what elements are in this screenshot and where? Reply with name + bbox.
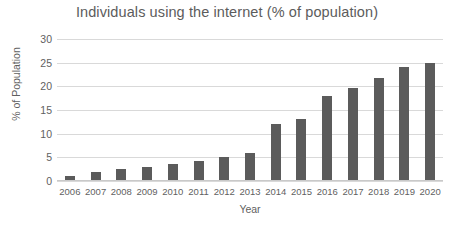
bar-slot: [134, 39, 160, 181]
x-axis-tick-label: 2015: [289, 186, 315, 197]
y-axis-title: % of Population: [10, 24, 22, 144]
y-axis-tick-label: 5: [22, 152, 52, 162]
bar-slot: [263, 39, 289, 181]
x-axis-line: [57, 180, 443, 181]
bar-slot: [392, 39, 418, 181]
bar-slot: [366, 39, 392, 181]
bar-slot: [289, 39, 315, 181]
bar: [348, 88, 358, 181]
bar: [399, 67, 409, 181]
x-axis-tick-label: 2010: [160, 186, 186, 197]
y-axis-tick-label: 0: [22, 176, 52, 186]
x-axis-tick-label: 2013: [237, 186, 263, 197]
gridline: [57, 181, 443, 182]
bar-slot: [186, 39, 212, 181]
bar: [374, 78, 384, 181]
bar-slot: [314, 39, 340, 181]
bar: [142, 167, 152, 181]
bar: [194, 161, 204, 181]
bar-chart: Individuals using the internet (% of pop…: [0, 0, 454, 227]
bars-layer: [57, 39, 443, 181]
x-axis-tick-label: 2014: [263, 186, 289, 197]
bar-slot: [417, 39, 443, 181]
bar-slot: [83, 39, 109, 181]
x-axis-tick-label: 2018: [366, 186, 392, 197]
x-axis-tick-label: 2016: [314, 186, 340, 197]
y-axis-tick-label: 30: [22, 34, 52, 44]
x-axis-tick-label: 2007: [83, 186, 109, 197]
bar: [219, 157, 229, 181]
x-axis-tick-label: 2009: [134, 186, 160, 197]
bar-slot: [211, 39, 237, 181]
x-axis-title: Year: [57, 203, 443, 215]
bar: [322, 96, 332, 181]
x-axis-tick-label: 2017: [340, 186, 366, 197]
bar-slot: [160, 39, 186, 181]
bar-slot: [108, 39, 134, 181]
chart-title: Individuals using the internet (% of pop…: [0, 4, 454, 20]
y-axis-tick-label: 10: [22, 129, 52, 139]
x-axis-tick-labels: 2006200720082009201020112012201320142015…: [57, 186, 443, 197]
y-axis-tick-label: 15: [22, 105, 52, 115]
x-axis-tick-label: 2006: [57, 186, 83, 197]
bar: [425, 63, 435, 181]
x-axis-tick-label: 2012: [211, 186, 237, 197]
x-axis-tick-label: 2008: [108, 186, 134, 197]
y-axis-tick-label: 20: [22, 81, 52, 91]
bar-slot: [340, 39, 366, 181]
bar: [296, 119, 306, 181]
x-axis-tick-label: 2020: [417, 186, 443, 197]
x-axis-tick-label: 2019: [392, 186, 418, 197]
bar-slot: [57, 39, 83, 181]
y-axis-tick-labels: 051015202530: [22, 39, 52, 181]
bar-slot: [237, 39, 263, 181]
bar: [245, 153, 255, 181]
bar: [271, 124, 281, 181]
x-axis-tick-label: 2011: [186, 186, 212, 197]
plot-area: [57, 39, 443, 181]
bar: [168, 164, 178, 181]
y-axis-tick-label: 25: [22, 58, 52, 68]
